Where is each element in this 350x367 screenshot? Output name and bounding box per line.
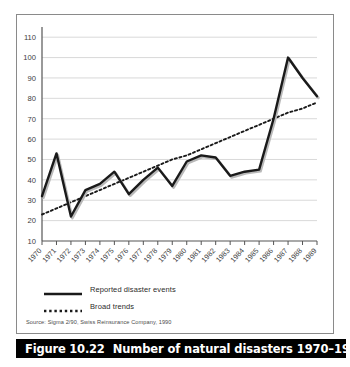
legend-swatch-dotted-line-icon xyxy=(44,302,82,312)
figure-caption-bar: Figure 10.22 Number of natural disasters… xyxy=(16,339,346,358)
y-axis-tick-label: 30 xyxy=(28,196,36,205)
x-axis-tick-label: 1988 xyxy=(286,246,304,264)
x-axis-tick-label: 1982 xyxy=(199,246,217,264)
figure-caption-title: Number of natural disasters 1970–1989 xyxy=(113,342,350,356)
source-note: Source: Sigma 2/90, Swiss Reinsurance Co… xyxy=(26,319,172,325)
figure-caption-number: Figure 10.22 xyxy=(25,342,105,356)
x-axis-tick-label: 1984 xyxy=(228,246,246,264)
x-axis-tick-label: 1987 xyxy=(272,246,290,264)
y-axis-tick-label: 60 xyxy=(28,135,36,144)
x-axis-tick-label: 1971 xyxy=(40,246,58,264)
x-axis-tick-label: 1976 xyxy=(113,246,131,264)
x-axis-tick-label: 1978 xyxy=(142,246,160,264)
x-axis-tick-marks xyxy=(42,241,317,245)
y-axis-tick-label: 110 xyxy=(24,33,36,42)
y-axis-tick-label: 90 xyxy=(28,74,36,83)
figure-container: 102030405060708090100110 197019711972197… xyxy=(0,0,350,367)
y-axis-tick-label: 40 xyxy=(28,176,36,185)
x-axis-tick-label: 1980 xyxy=(171,246,189,264)
x-axis-tick-label: 1972 xyxy=(55,246,73,264)
y-axis-tick-label: 20 xyxy=(28,216,36,225)
x-axis-tick-label: 1983 xyxy=(214,246,232,264)
legend-swatch-solid-line-icon xyxy=(44,285,82,295)
y-axis-tick-label: 10 xyxy=(28,237,36,246)
y-axis-tick-label: 100 xyxy=(23,53,36,62)
y-axis-tick-label: 80 xyxy=(28,94,36,103)
legend-item-reported-disaster-events: Reported disaster events xyxy=(44,281,284,298)
legend-label-broad-trends: Broad trends xyxy=(90,302,134,311)
x-axis-tick-label: 1975 xyxy=(98,246,116,264)
x-axis-tick-label: 1989 xyxy=(301,246,319,264)
x-axis-tick-label: 1986 xyxy=(257,246,275,264)
x-axis-tick-label: 1985 xyxy=(243,246,261,264)
legend-label-reported-disaster-events: Reported disaster events xyxy=(90,285,176,294)
x-axis-tick-label: 1974 xyxy=(84,246,102,264)
y-axis-tick-label: 50 xyxy=(28,155,36,164)
legend-item-broad-trends: Broad trends xyxy=(44,298,284,315)
x-axis-tick-label: 1979 xyxy=(156,246,174,264)
chart-legend: Reported disaster events Broad trends xyxy=(44,281,284,315)
x-axis-tick-label: 1973 xyxy=(69,246,87,264)
reported-disaster-events-line-shadow xyxy=(43,59,318,218)
x-axis-tick-labels: 1970197119721973197419751976197719781979… xyxy=(26,246,319,264)
x-axis-tick-label: 1977 xyxy=(127,246,145,264)
y-axis-tick-label: 70 xyxy=(28,115,36,124)
x-axis-tick-label: 1981 xyxy=(185,246,203,264)
x-axis-tick-label: 1970 xyxy=(26,246,44,264)
reported-disaster-events-line xyxy=(42,58,317,217)
y-axis-tick-labels: 102030405060708090100110 xyxy=(23,33,36,246)
